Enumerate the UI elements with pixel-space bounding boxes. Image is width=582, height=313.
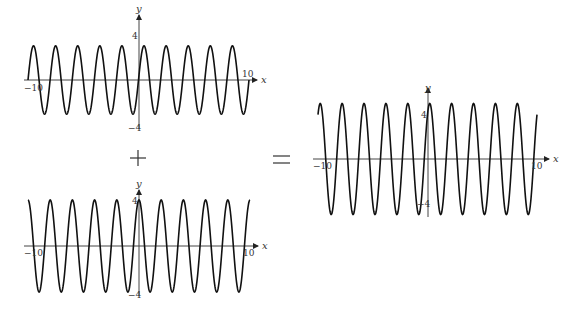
y-tick-neg4: −4 (128, 290, 142, 300)
y-tick-4: 4 (421, 110, 427, 120)
figure: x y −10 10 4 −4 x y −10 10 4 −4 x y −10 … (0, 0, 582, 313)
y-tick-neg4: −4 (128, 123, 142, 133)
x-tick-neg10: −10 (24, 83, 43, 93)
chart-bottom-cosine: x y −10 10 4 −4 (24, 178, 268, 300)
x-axis-label: x (261, 74, 267, 85)
y-axis-label: y (135, 3, 142, 14)
x-tick-10: 10 (243, 248, 255, 258)
y-axis-label: y (424, 82, 431, 93)
y-tick-4: 4 (132, 196, 138, 206)
x-tick-neg10: −10 (24, 248, 43, 258)
x-tick-10: 10 (531, 161, 543, 171)
y-axis-label: y (135, 178, 142, 189)
y-tick-neg4: −4 (417, 199, 431, 209)
chart-result-sum: x y −10 10 4 −4 (313, 82, 559, 217)
chart-top-sine: x y −10 10 4 −4 (24, 3, 267, 133)
x-tick-10: 10 (242, 69, 254, 79)
x-tick-neg10: −10 (313, 161, 332, 171)
equals-operator (273, 156, 290, 163)
y-tick-4: 4 (132, 31, 138, 41)
plus-operator (130, 150, 146, 166)
x-axis-label: x (262, 240, 268, 251)
x-axis-label: x (553, 153, 559, 164)
